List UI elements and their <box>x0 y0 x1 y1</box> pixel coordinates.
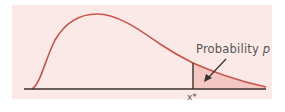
p-variable: p <box>263 42 271 56</box>
probability-label: Probability p <box>196 42 270 56</box>
x-star-label: x* <box>187 92 197 102</box>
distribution-figure <box>0 0 285 112</box>
